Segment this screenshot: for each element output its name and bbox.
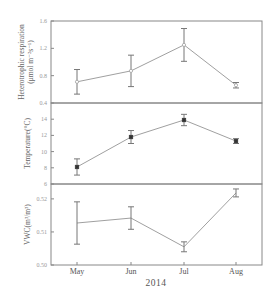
data-point [129,69,132,72]
data-point [182,118,186,122]
panel-frame [51,103,262,184]
chart-panels: 0.40.81.21.6Heterotrophic respiration(μm… [17,18,262,268]
panel-temperature: 68101214Temperature(°C) [23,103,262,187]
y-tick-label: 14 [41,116,47,122]
y-tick-label: 0.4 [40,100,48,106]
y-tick-label: 0.52 [37,196,48,202]
panel-heterotrophic-respiration: 0.40.81.21.6Heterotrophic respiration(μm… [17,18,262,106]
series-line [77,120,236,167]
series-line [77,45,236,85]
y-tick-label: 1.6 [40,18,48,24]
y-axis-title: Heterotrophic respiration [17,24,26,100]
x-tick-label: Jun [125,267,136,276]
data-point [234,139,238,143]
x-axis: MayJunJulAug [70,262,243,276]
y-tick-label: 0.8 [40,73,48,79]
series-line [77,193,236,247]
x-axis-title: 2014 [146,278,167,288]
error-bar [181,242,187,252]
x-tick-label: Jul [179,267,189,276]
y-axis-title: VWC(m³/m³) [23,204,32,245]
panel-vwc: 0.500.510.52VWC(m³/m³) [23,184,262,268]
y-tick-label: 0.51 [37,229,48,235]
data-point [182,43,185,46]
y-axis-unit: (μmol m⁻²s⁻¹) [26,40,35,84]
y-tick-label: 1.2 [40,45,48,51]
y-tick-label: 10 [41,149,47,155]
x-tick-label: Aug [229,267,243,276]
x-tick-label: May [70,267,85,276]
y-tick-label: 6 [44,181,47,187]
panel-frame [51,21,262,103]
panel-frame [51,184,262,265]
y-axis-title: Temperature(°C) [23,118,32,169]
data-point [75,165,79,169]
data-point [75,80,78,83]
data-point [234,84,237,87]
y-tick-label: 0.50 [37,262,48,268]
y-tick-label: 8 [44,165,47,171]
stacked-line-chart: 0.40.81.21.6Heterotrophic respiration(μm… [0,0,274,299]
y-tick-label: 12 [41,132,47,138]
data-point [129,135,133,139]
